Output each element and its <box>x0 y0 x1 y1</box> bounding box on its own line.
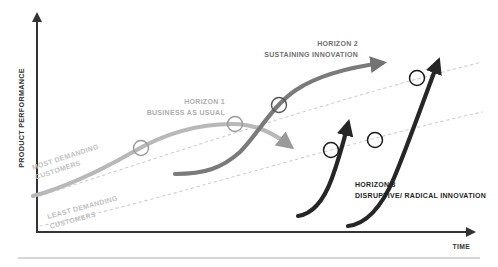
horizon-1-label-line2: BUSINESS AS USUAL <box>147 109 226 116</box>
horizon-3-label-line1: HORIZON 3 <box>355 181 396 188</box>
horizon-3-label-line2: DISRUPTIVE/ RADICAL INNOVATION <box>355 192 486 199</box>
horizon-1-curve <box>33 124 290 196</box>
horizon-2-label-line1: HORIZON 2 <box>317 40 358 47</box>
crossing-marker-h3-late-lower <box>368 133 383 148</box>
horizon-3-label: HORIZON 3 DISRUPTIVE/ RADICAL INNOVATION <box>355 181 486 199</box>
trend-label-least-demanding: LEAST DEMANDING CUSTOMERS <box>46 194 121 229</box>
horizon-1-label: HORIZON 1 BUSINESS AS USUAL <box>147 98 226 116</box>
x-axis-label: TIME <box>453 243 471 250</box>
diagram-canvas: PRODUCT PERFORMANCE TIME HORIZON 1 BUSIN… <box>0 0 498 267</box>
horizon-2-curve-group <box>175 63 382 174</box>
horizon-2-label: HORIZON 2 SUSTAINING INNOVATION <box>264 40 358 58</box>
crossing-marker-h3-late-upper <box>410 71 425 86</box>
horizon-3-curve-late <box>348 62 438 226</box>
horizon-2-label-line2: SUSTAINING INNOVATION <box>264 51 358 58</box>
horizon-2-curve <box>175 63 382 174</box>
horizon-1-label-line1: HORIZON 1 <box>184 98 225 105</box>
horizon-1-curve-group <box>33 124 290 196</box>
three-horizons-diagram: PRODUCT PERFORMANCE TIME HORIZON 1 BUSIN… <box>0 0 498 267</box>
horizon-3-curve-early <box>298 124 348 216</box>
y-axis-label: PRODUCT PERFORMANCE <box>17 68 26 168</box>
